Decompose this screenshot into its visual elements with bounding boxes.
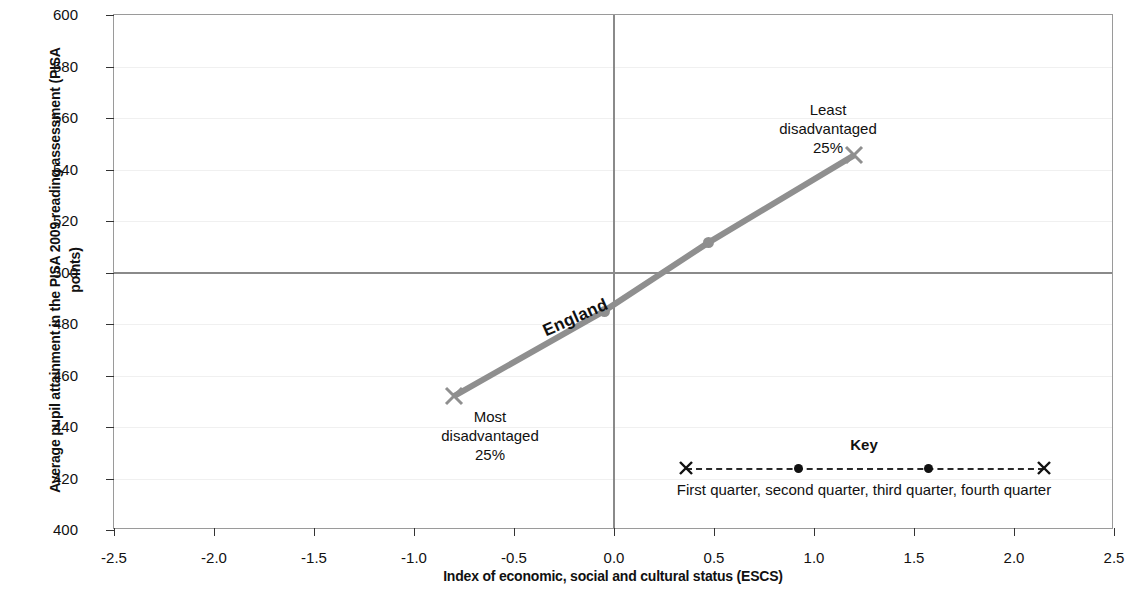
key-marker-x [677,459,695,477]
y-tick [106,67,114,68]
y-tick [106,479,114,480]
x-tick [114,528,115,536]
x-tick-label: -2.5 [79,549,149,566]
y-tick-label: 560 [18,109,78,126]
annotation-least-disadvantaged: Least disadvantaged 25% [748,100,908,157]
series-label-england: England [540,295,611,341]
x-tick-label: 2.0 [979,549,1049,566]
x-tick [314,528,315,536]
x-tick [1014,528,1015,536]
y-tick-label: 460 [18,367,78,384]
x-tick [914,528,915,536]
x-tick [1114,528,1115,536]
y-tick-label: 580 [18,58,78,75]
x-tick [814,528,815,536]
y-tick [106,170,114,171]
x-tick-label: 2.5 [1079,549,1133,566]
y-tick [106,118,114,119]
y-tick-label: 500 [18,264,78,281]
y-tick [106,324,114,325]
key-caption: First quarter, second quarter, third qua… [604,481,1124,498]
x-tick-label: 1.5 [879,549,949,566]
y-tick-label: 420 [18,470,78,487]
x-tick [614,528,615,536]
key-title: Key [804,436,924,453]
y-tick-label: 540 [18,161,78,178]
x-tick [514,528,515,536]
y-tick [106,221,114,222]
data-point-marker-dot [703,237,714,248]
x-tick-label: -1.5 [279,549,349,566]
x-tick-label: 0.0 [579,549,649,566]
annotation-most-disadvantaged: Most disadvantaged 25% [410,407,570,464]
y-tick [106,273,114,274]
key-connector-line [686,468,1044,470]
x-tick-label: -1.0 [379,549,449,566]
y-tick-label: 400 [18,521,78,538]
y-tick [106,427,114,428]
key-marker-x [1035,459,1053,477]
key-marker-dot [924,464,933,473]
x-tick [714,528,715,536]
x-tick-label: -0.5 [479,549,549,566]
y-tick-label: 520 [18,212,78,229]
x-tick-label: 0.5 [679,549,749,566]
y-tick [106,15,114,16]
y-tick-label: 600 [18,6,78,23]
y-tick-label: 440 [18,418,78,435]
data-point-marker-x [443,385,465,407]
reference-line-zero [613,15,615,528]
y-tick-label: 480 [18,315,78,332]
x-tick [414,528,415,536]
x-tick [214,528,215,536]
x-tick-label: 1.0 [779,549,849,566]
key-marker-dot [794,464,803,473]
plot-area: 400420440460480500520540560580600-2.5-2.… [113,14,1113,529]
chart-root: Average pupil attainment in the PISA 200… [0,0,1133,599]
y-tick [106,530,114,531]
y-tick [106,376,114,377]
x-axis-title: Index of economic, social and cultural s… [113,568,1113,584]
x-tick-label: -2.0 [179,549,249,566]
